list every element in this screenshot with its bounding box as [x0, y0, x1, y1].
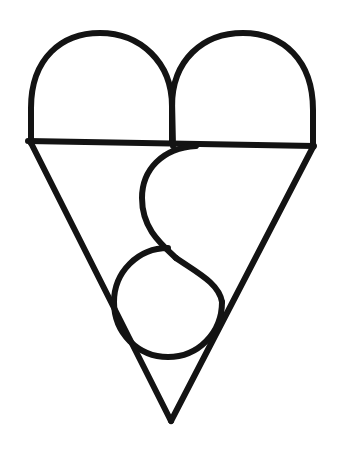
center-notch-stem: [172, 100, 173, 146]
drawing-canvas: [0, 0, 338, 456]
line-drawing-figure: [0, 0, 338, 456]
canvas-background: [0, 0, 338, 456]
